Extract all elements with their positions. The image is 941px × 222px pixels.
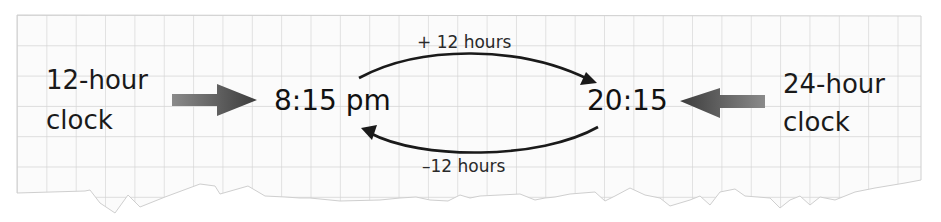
right-label-line2: clock	[783, 106, 850, 138]
clock-conversion-diagram: 12-hour clock 8:15 pm 20:15 + 12 hours –…	[0, 0, 941, 222]
left-label-line2: clock	[46, 104, 113, 136]
right-label-line1: 24-hour	[783, 68, 885, 100]
time-24-hour: 20:15	[587, 84, 668, 118]
add-12-hours-label: + 12 hours	[417, 32, 511, 52]
left-label-line1: 12-hour	[46, 64, 148, 96]
time-12-hour: 8:15 pm	[274, 84, 391, 118]
subtract-12-hours-label: –12 hours	[422, 156, 505, 176]
